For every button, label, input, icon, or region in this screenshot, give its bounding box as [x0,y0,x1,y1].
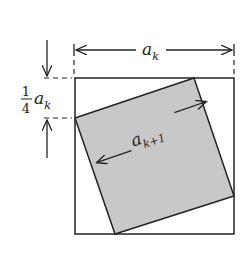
outer-side-label: ak [142,39,159,63]
outer-side-dimension: ak [74,39,234,76]
offset-dimension: 1 4 ak [21,40,72,158]
fraction-denominator: 4 [22,101,30,116]
fraction-numerator: 1 [22,84,30,99]
offset-label: ak [34,88,51,112]
inner-rotated-square [75,78,234,234]
nested-squares-diagram: ak 1 4 ak ak+1 [0,0,252,270]
